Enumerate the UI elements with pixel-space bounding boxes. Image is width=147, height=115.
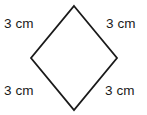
rhombus-figure: 3 cm 3 cm 3 cm 3 cm [0, 0, 147, 115]
side-label-bottom-left: 3 cm [4, 84, 34, 98]
side-label-top-right: 3 cm [106, 17, 136, 31]
side-label-bottom-right: 3 cm [105, 84, 135, 98]
side-label-top-left: 3 cm [4, 17, 34, 31]
